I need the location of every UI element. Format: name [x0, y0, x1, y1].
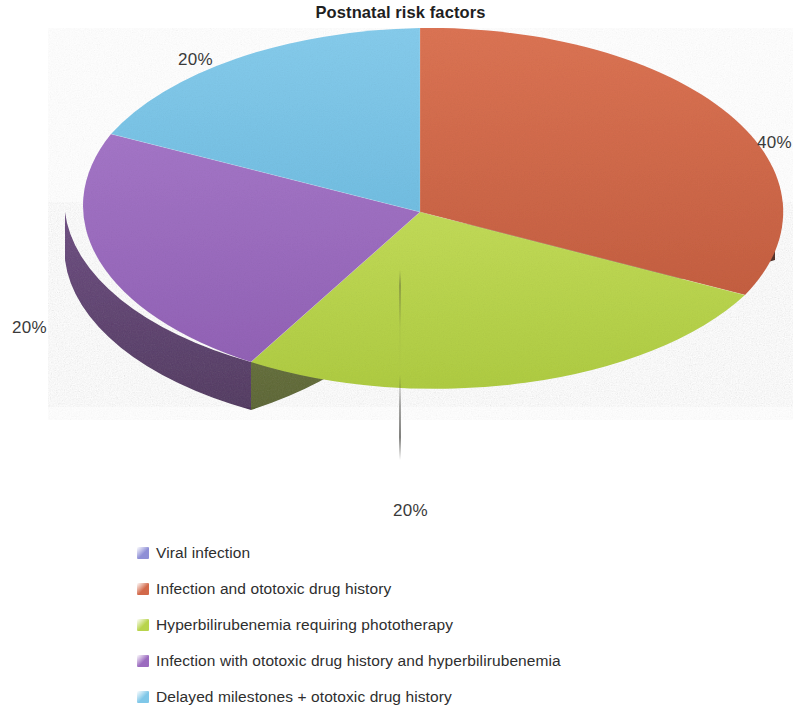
- legend-item-hyperbilirubenemia[interactable]: Hyperbilirubenemia requiring phototherap…: [137, 607, 777, 643]
- pct-label-infection-hyperbili: 20%: [12, 318, 47, 338]
- legend-item-infection-ototoxic[interactable]: Infection and ototoxic drug history: [137, 571, 777, 607]
- pie-plot-area: [48, 28, 793, 503]
- legend-label: Viral infection: [156, 544, 250, 562]
- legend-item-viral-infection[interactable]: Viral infection: [137, 535, 777, 571]
- pct-label-delayed-milestones: 20%: [178, 50, 213, 70]
- legend-label: Infection and ototoxic drug history: [156, 580, 391, 598]
- legend-swatch-icon: [137, 547, 149, 559]
- legend-item-delayed-milestones[interactable]: Delayed milestones + ototoxic drug histo…: [137, 679, 777, 715]
- legend-swatch-icon: [137, 619, 149, 631]
- legend-swatch-icon: [137, 691, 149, 703]
- chart-title: Postnatal risk factors: [0, 3, 801, 22]
- pct-label-hyperbilirubenemia: 20%: [393, 501, 428, 521]
- legend-label: Infection with ototoxic drug history and…: [156, 652, 561, 670]
- pie-svg: [48, 28, 793, 503]
- legend-swatch-icon: [137, 655, 149, 667]
- pct-label-infection-ototoxic: 40%: [757, 133, 792, 153]
- chart-legend: Viral infection Infection and ototoxic d…: [137, 535, 777, 715]
- legend-swatch-icon: [137, 583, 149, 595]
- legend-label: Hyperbilirubenemia requiring phototherap…: [156, 616, 453, 634]
- legend-item-infection-hyperbili[interactable]: Infection with ototoxic drug history and…: [137, 643, 777, 679]
- pie-chart-figure: Postnatal risk factors: [0, 0, 801, 718]
- legend-label: Delayed milestones + ototoxic drug histo…: [156, 688, 452, 706]
